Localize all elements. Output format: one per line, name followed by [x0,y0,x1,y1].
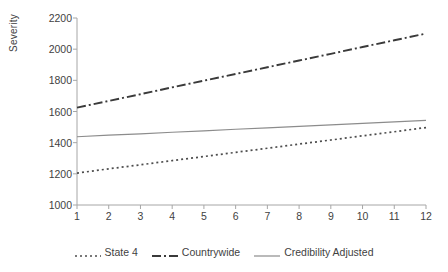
x-axis-tick-label: 10 [351,210,375,222]
x-axis-tick-label: 7 [255,210,279,222]
legend-line-swatch [152,247,178,257]
legend-item[interactable]: Countrywide [152,246,240,258]
legend-item[interactable]: State 4 [75,246,138,258]
x-axis-tick-labels: 123456789101112 [77,210,426,226]
x-axis-tick-label: 12 [414,210,438,222]
data-series-layer [77,34,426,173]
legend-item[interactable]: Credibility Adjusted [254,246,373,258]
x-axis-tick-label: 5 [192,210,216,222]
x-axis-ticks [77,205,426,209]
x-axis-tick-label: 2 [97,210,121,222]
legend-item-label: Credibility Adjusted [284,246,373,258]
legend-line-swatch [75,247,101,257]
x-axis-tick-label: 8 [287,210,311,222]
plot-area [0,0,448,272]
series-line [77,120,426,136]
x-axis-tick-label: 6 [224,210,248,222]
legend-item-label: State 4 [105,246,138,258]
chart-legend: State 4CountrywideCredibility Adjusted [0,246,448,258]
x-axis-tick-label: 3 [128,210,152,222]
x-axis-tick-label: 9 [319,210,343,222]
y-axis-ticks [73,18,77,205]
x-axis-tick-label: 1 [65,210,89,222]
legend-item-label: Countrywide [182,246,240,258]
x-axis-tick-label: 11 [382,210,406,222]
axis-lines [77,18,426,205]
legend-line-swatch [254,247,280,257]
series-line [77,34,426,108]
severity-line-chart: Severity 2200200018001600140012001000 12… [0,0,448,272]
x-axis-tick-label: 4 [160,210,184,222]
